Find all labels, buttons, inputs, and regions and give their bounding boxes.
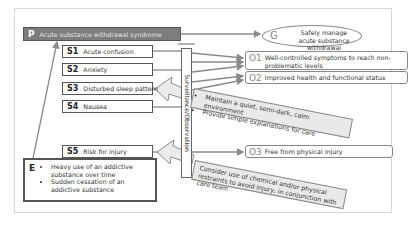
outcome-box-o2: O2 Improved health and functional status: [245, 71, 408, 84]
symptom-code: S2: [67, 65, 78, 74]
outcome-label: Free from physical injury: [265, 146, 343, 156]
outcome-code: O2: [249, 72, 262, 84]
problem-label: Acute substance withdrawal syndrome: [40, 31, 162, 38]
symptom-label: Risk for injury: [83, 148, 127, 155]
symptom-code: S5: [67, 147, 78, 156]
symptom-label: Disturbed sleep pattern: [83, 85, 158, 92]
symptom-label: Acute confusion: [83, 48, 133, 55]
etiology-box: E Heavy use of an addictive substance ov…: [23, 158, 157, 202]
outcome-code: O1: [249, 52, 262, 64]
etiology-code: E: [29, 163, 35, 173]
symptom-box-s4: S4 Nausea: [62, 100, 153, 113]
problem-box: P Acute substance withdrawal syndrome: [23, 27, 181, 41]
problem-code: P: [28, 29, 35, 39]
outcome-box-o1: O1 Well-controlled symptoms to reach non…: [245, 51, 408, 70]
outcome-label: Improved health and functional status: [265, 72, 385, 82]
symptom-label: Nausea: [83, 103, 107, 110]
goal-code: G: [270, 30, 278, 41]
etiology-item: Heavy use of an addictive substance over…: [51, 163, 155, 178]
symptom-code: S1: [67, 47, 78, 56]
symptom-code: S3: [67, 84, 78, 93]
symptom-label: Anxiety: [83, 66, 107, 73]
surveillance-label: Surveillance/Observation: [183, 74, 190, 152]
goal-ellipse: G Safely manage acute substance withdraw…: [262, 25, 362, 47]
goal-label: Safely manage acute substance withdrawal: [293, 29, 355, 52]
outcome-box-o3: O3 Free from physical injury: [245, 145, 393, 158]
symptom-code: S4: [67, 102, 78, 111]
etiology-item: Sudden cessation of an addictive substan…: [51, 178, 155, 193]
symptom-box-s3: S3 Disturbed sleep pattern: [62, 82, 153, 95]
outcome-code: O3: [249, 146, 262, 158]
outcome-label: Well-controlled symptoms to reach non-pr…: [265, 52, 407, 69]
symptom-box-s5: S5 Risk for injury: [62, 145, 153, 158]
symptom-box-s2: S2 Anxiety: [62, 63, 153, 76]
symptom-box-s1: S1 Acute confusion: [62, 45, 153, 58]
